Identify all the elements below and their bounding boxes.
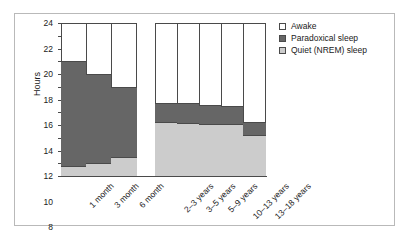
bar-5-9-years[interactable]	[199, 23, 222, 176]
legend-item-paradoxical-sleep: Paradoxical sleep	[279, 34, 367, 43]
y-tick-mark: 0	[58, 176, 61, 177]
legend-label-paradoxical-sleep: Paradoxical sleep	[291, 34, 358, 43]
x-axis-label: 6 month	[137, 181, 166, 210]
segment-paradoxical	[155, 103, 178, 123]
bar-2-3-years[interactable]	[155, 23, 178, 176]
paradoxical-swatch-icon	[279, 35, 286, 42]
segment-paradoxical	[243, 122, 266, 135]
segment-nrem	[199, 124, 222, 176]
segment-nrem	[177, 123, 200, 176]
y-tick-label: 22	[44, 45, 53, 54]
bar-13-18-years[interactable]	[243, 23, 266, 176]
bar-group-infants	[61, 23, 139, 176]
awake-swatch-icon	[279, 23, 286, 30]
y-tick-label: 16	[44, 121, 53, 130]
figure-frame: Hours 242220181614121086420 1 month3 mon…	[14, 13, 395, 226]
segment-paradoxical	[199, 105, 222, 124]
y-tick-label: 14	[44, 147, 53, 156]
legend-item-awake: Awake	[279, 22, 367, 31]
bar-10-13-years[interactable]	[221, 23, 244, 176]
segment-paradoxical	[221, 106, 244, 124]
segment-nrem	[111, 157, 137, 176]
x-axis-label: 3 month	[112, 181, 141, 210]
legend-item-nrem-sleep: Quiet (NREM) sleep	[279, 46, 367, 55]
bar-group-children	[155, 23, 267, 176]
y-axis-title: Hours	[32, 72, 42, 96]
y-tick-label: 12	[44, 172, 53, 181]
y-tick-label: 8	[48, 223, 53, 232]
segment-paradoxical	[111, 87, 137, 157]
y-tick-label: 18	[44, 96, 53, 105]
bar-3-month[interactable]	[86, 23, 112, 176]
y-tick-label: 10	[44, 198, 53, 207]
chart-legend: Awake Paradoxical sleep Quiet (NREM) sle…	[279, 22, 367, 58]
y-tick-label: 20	[44, 70, 53, 79]
segment-nrem	[243, 135, 266, 176]
plot-area: Hours 242220181614121086420 1 month3 mon…	[61, 23, 266, 176]
x-axis-line	[61, 176, 267, 177]
bar-6-month[interactable]	[111, 23, 137, 176]
y-tick-label: 24	[44, 19, 53, 28]
segment-paradoxical	[177, 103, 200, 123]
legend-label-awake: Awake	[291, 22, 316, 31]
segment-nrem	[86, 163, 112, 176]
nrem-swatch-icon	[279, 47, 286, 54]
segment-nrem	[155, 122, 178, 176]
legend-label-nrem-sleep: Quiet (NREM) sleep	[291, 46, 367, 55]
bar-1-month[interactable]	[61, 23, 87, 176]
segment-nrem	[61, 166, 87, 176]
bar-3-5-years[interactable]	[177, 23, 200, 176]
segment-paradoxical	[61, 61, 87, 166]
x-axis-label: 1 month	[87, 181, 116, 210]
segment-nrem	[221, 124, 244, 176]
segment-paradoxical	[86, 74, 112, 163]
